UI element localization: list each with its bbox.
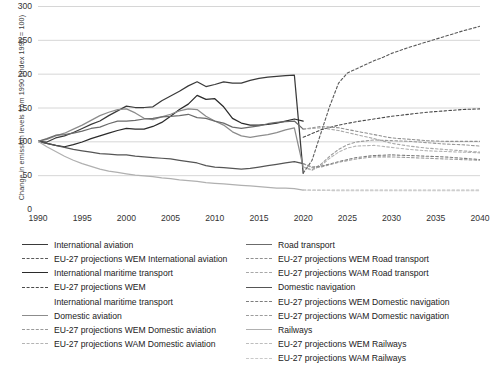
y-tick-150: 150	[2, 104, 32, 113]
legend-item[interactable]: EU-27 projections WEM Road transport	[246, 252, 474, 266]
legend-item-label: EU-27 projections WEM Road transport	[278, 255, 429, 264]
legend-item-label: International aviation	[54, 241, 133, 250]
x-tick-1995: 1995	[62, 214, 102, 223]
legend-item-label: EU-27 projections WAM Railways	[278, 354, 406, 363]
legend-swatch-solid-icon	[246, 325, 272, 335]
x-tick-2040: 2040	[460, 214, 494, 223]
x-tick-2020: 2020	[283, 214, 323, 223]
legend-item[interactable]: EU-27 projections WAM Road transport	[246, 266, 474, 280]
x-tick-1990: 1990	[18, 214, 58, 223]
legend-item[interactable]: EU-27 projections WEM	[22, 281, 250, 295]
y-tick-250: 250	[2, 36, 32, 45]
x-tick-2025: 2025	[327, 214, 367, 223]
legend-item[interactable]: Road transport	[246, 238, 474, 252]
series-line	[303, 128, 480, 152]
legend-column-right: Road transportEU-27 projections WEM Road…	[246, 238, 474, 366]
chart-canvas	[38, 6, 480, 209]
legend-item-label: Road transport	[278, 241, 335, 250]
legend-swatch-dash-icon	[22, 339, 48, 349]
legend-swatch-solid-icon	[22, 268, 48, 278]
legend-swatch-solid-icon	[22, 311, 48, 321]
x-tick-2035: 2035	[416, 214, 456, 223]
series-line	[38, 141, 303, 190]
series-line	[38, 141, 303, 169]
legend-swatch-dash-icon	[246, 354, 272, 364]
series-line	[303, 109, 480, 137]
legend-swatch-dash-icon	[246, 311, 272, 321]
series-line	[303, 140, 480, 170]
legend-item-label: EU-27 projections WEM International avia…	[54, 255, 227, 264]
legend-item-label: EU-27 projections WAM Road transport	[278, 269, 429, 278]
legend-item[interactable]: International maritime transport	[22, 295, 250, 309]
y-tick-300: 300	[2, 2, 32, 11]
legend-swatch-dash-icon	[22, 254, 48, 264]
legend-item-label: International maritime transport	[54, 298, 173, 307]
legend-swatch-solid-icon	[246, 283, 272, 293]
x-tick-2000: 2000	[106, 214, 146, 223]
legend-item[interactable]: Domestic aviation	[22, 309, 250, 323]
legend-item[interactable]: EU-27 projections WAM Domestic navigatio…	[246, 309, 474, 323]
legend-swatch-dash-icon	[246, 254, 272, 264]
legend-item[interactable]: Railways	[246, 323, 474, 337]
legend-swatch-solid-icon	[246, 240, 272, 250]
legend-item-label: EU-27 projections WEM	[54, 283, 146, 292]
series-line	[303, 26, 480, 173]
legend-column-left: International aviationEU-27 projections …	[22, 238, 250, 352]
y-tick-50: 50	[2, 171, 32, 180]
legend-item[interactable]: International maritime transport	[22, 266, 250, 280]
legend-swatch-dash-icon	[22, 325, 48, 335]
legend-swatch-dash-icon	[22, 283, 48, 293]
legend-item[interactable]: EU-27 projections WEM International avia…	[22, 252, 250, 266]
legend-item-label: EU-27 projections WAM Domestic navigatio…	[278, 312, 449, 321]
legend-item-label: Domestic aviation	[54, 312, 122, 321]
legend-item-label: EU-27 projections WAM Domestic aviation	[54, 340, 216, 349]
x-tick-2005: 2005	[151, 214, 191, 223]
legend-item[interactable]: EU-27 projections WEM Domestic navigatio…	[246, 295, 474, 309]
x-tick-2030: 2030	[372, 214, 412, 223]
legend-item[interactable]: EU-27 projections WAM Domestic aviation	[22, 337, 250, 351]
x-tick-2010: 2010	[195, 214, 235, 223]
legend-swatch-blank-icon	[22, 297, 48, 307]
legend-item-label: EU-27 projections WEM Railways	[278, 340, 406, 349]
legend-item-label: EU-27 projections WEM Domestic navigatio…	[278, 298, 449, 307]
legend-swatch-dash-icon	[246, 297, 272, 307]
legend-item-label: EU-27 projections WEM Domestic aviation	[54, 326, 216, 335]
legend-item[interactable]: EU-27 projections WAM Railways	[246, 352, 474, 366]
legend-item-label: Domestic navigation	[278, 283, 355, 292]
legend-item[interactable]: EU-27 projections WEM Domestic aviation	[22, 323, 250, 337]
legend-item-label: Railways	[278, 326, 312, 335]
legend-swatch-solid-icon	[22, 240, 48, 250]
series-line	[303, 145, 480, 170]
legend-item[interactable]: EU-27 projections WEM Railways	[246, 337, 474, 351]
x-tick-2015: 2015	[239, 214, 279, 223]
legend-item[interactable]: International aviation	[22, 238, 250, 252]
series-line	[38, 95, 303, 146]
legend-item-label: International maritime transport	[54, 269, 173, 278]
legend-swatch-dash-icon	[246, 339, 272, 349]
y-tick-100: 100	[2, 137, 32, 146]
legend-item[interactable]: Domestic navigation	[246, 281, 474, 295]
y-tick-200: 200	[2, 70, 32, 79]
legend-swatch-dash-icon	[246, 268, 272, 278]
plot-area	[38, 6, 480, 209]
chart-legend: International aviationEU-27 projections …	[22, 238, 482, 348]
